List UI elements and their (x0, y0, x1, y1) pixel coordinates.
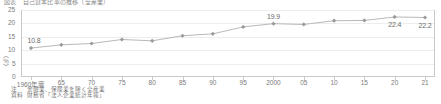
x-axis-tick-mark (152, 77, 153, 80)
y-axis-tick-label: 25 (8, 6, 15, 13)
note-row: 資料財務省「法人企業統計年報」 (11, 92, 105, 98)
chart-title: 図表 自己資本比率の推移（全産業） (4, 0, 109, 6)
x-axis-tick-mark (273, 77, 274, 80)
x-axis-tick-mark (364, 77, 365, 80)
plot-area (21, 10, 435, 77)
x-axis-tick-label: 65 (58, 79, 65, 86)
x-axis-tick-label: 90 (209, 79, 216, 86)
y-axis-label: （％） (1, 52, 10, 70)
x-axis-tick-mark (183, 77, 184, 80)
x-axis-tick-mark (334, 77, 335, 80)
note-key: 資料 (11, 92, 27, 98)
y-axis-tick-label: 15 (8, 33, 15, 40)
x-axis-tick-mark (31, 77, 32, 80)
y-axis-tick-label: 20 (8, 19, 15, 26)
x-axis-tick-mark (304, 77, 305, 80)
data-point-label: 10.8 (28, 37, 41, 44)
gridline (22, 64, 434, 65)
x-axis-tick-label: 10 (330, 79, 337, 86)
x-axis-tick-mark (92, 77, 93, 80)
x-axis-tick-label: 85 (179, 79, 186, 86)
chart-notes: 注金融業、保険業を除く全産業資料財務省「法人企業統計年報」 (11, 86, 105, 99)
x-axis-tick-label: 75 (118, 79, 125, 86)
x-axis-tick-label: 05 (300, 79, 307, 86)
x-axis-tick-label: 20 (391, 79, 398, 86)
x-axis-tick-mark (61, 77, 62, 80)
x-axis-tick-mark (425, 77, 426, 80)
gridline (22, 37, 434, 38)
x-axis-tick-label: 80 (149, 79, 156, 86)
gridline (22, 10, 434, 11)
x-axis-tick-label: 70 (88, 79, 95, 86)
x-axis-tick-label: 15 (361, 79, 368, 86)
gridline (22, 50, 434, 51)
figure-container: 図表 自己資本比率の推移（全産業） 0510152025 （％） 1960年度6… (0, 0, 441, 104)
data-point-label: 19.9 (267, 13, 280, 20)
x-axis-tick-mark (395, 77, 396, 80)
note-text: 財務省「法人企業統計年報」 (27, 92, 105, 98)
y-axis-tick-label: 0 (12, 73, 16, 80)
x-axis-tick-label: 95 (240, 79, 247, 86)
data-point-label: 22.2 (419, 22, 432, 29)
data-point-label: 22.4 (388, 21, 401, 28)
x-axis-tick-mark (243, 77, 244, 80)
gridline (22, 23, 434, 24)
y-axis-tick-label: 5 (12, 60, 16, 67)
x-axis-tick-mark (213, 77, 214, 80)
x-axis-tick-label: 2000 (266, 79, 280, 86)
x-axis-tick-mark (122, 77, 123, 80)
x-axis-tick-label: 21 (421, 79, 428, 86)
